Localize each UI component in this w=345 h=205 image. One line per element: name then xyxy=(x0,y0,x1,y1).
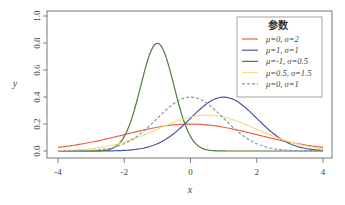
legend-label: μ=0, σ=2 xyxy=(265,34,299,44)
legend-title: 参数 xyxy=(268,19,289,31)
y-tick-label: 0.8 xyxy=(32,37,42,49)
x-tick-label: -2 xyxy=(121,167,129,177)
x-axis: -4-2024 xyxy=(54,158,326,177)
legend-label: μ=1, σ=1 xyxy=(265,45,299,55)
x-tick-label: -4 xyxy=(54,167,62,177)
y-tick-label: 0.4 xyxy=(32,91,42,103)
y-tick-label: 0.2 xyxy=(32,118,42,129)
y-tick-label: 0.0 xyxy=(32,145,42,157)
normal-distribution-chart: 0.00.20.40.60.81.0 -4-2024 x y 参数 μ=0, σ… xyxy=(0,0,345,205)
series-curve-3 xyxy=(58,115,323,151)
legend-label: μ=0, σ=1 xyxy=(265,79,299,89)
legend-label: μ=0.5, σ=1.5 xyxy=(265,68,311,78)
x-tick-label: 2 xyxy=(255,167,260,177)
y-axis-label: y xyxy=(12,78,18,89)
legend-label: μ=-1, σ=0.5 xyxy=(265,56,308,66)
y-tick-label: 0.6 xyxy=(32,64,42,76)
y-tick-label: 1.0 xyxy=(32,10,42,22)
x-axis-label: x xyxy=(187,184,193,195)
x-tick-label: 0 xyxy=(188,167,193,177)
y-axis: 0.00.20.40.60.81.0 xyxy=(32,10,47,157)
x-tick-label: 4 xyxy=(321,167,326,177)
legend: 参数 μ=0, σ=2μ=1, σ=1μ=-1, σ=0.5μ=0.5, σ=1… xyxy=(237,17,322,97)
